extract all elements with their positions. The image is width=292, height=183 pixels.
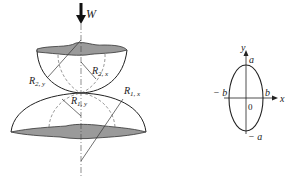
load-arrow-icon	[76, 3, 86, 24]
label-r1x: R1, x	[123, 85, 141, 98]
label-origin: 0	[248, 102, 253, 112]
label-a-top: a	[249, 54, 254, 65]
axis-y-label: y	[240, 42, 246, 53]
label-b-right: b	[265, 87, 270, 98]
load-label: W	[86, 7, 97, 21]
contact-diagram: W R2, y R2, x R1, y R1, x y x a − a b − …	[0, 0, 292, 183]
label-a-bottom: − a	[248, 131, 262, 142]
label-b-left: − b	[213, 87, 227, 98]
upper-body	[37, 43, 127, 93]
x-axis-arrow-icon	[272, 96, 278, 101]
axis-x-label: x	[279, 93, 285, 104]
label-r1y: R1, y	[70, 95, 88, 108]
label-r2y: R2, y	[28, 75, 46, 88]
